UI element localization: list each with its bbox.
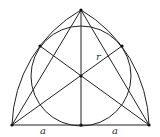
base-midpoint — [79, 123, 82, 126]
left-vertex-point — [10, 123, 13, 126]
radius-label: r — [96, 51, 102, 62]
left-tangent-point — [38, 44, 41, 47]
left-half-base-label: a — [40, 125, 46, 136]
right-median — [40, 46, 149, 125]
right-half-base-label: a — [112, 125, 118, 136]
left-median — [12, 46, 122, 125]
top-vertex-point — [79, 8, 82, 11]
reuleaux-diagram: r a a — [0, 0, 160, 137]
right-tangent-point — [120, 44, 123, 47]
right-vertex-point — [147, 123, 150, 126]
center-point — [79, 74, 82, 77]
